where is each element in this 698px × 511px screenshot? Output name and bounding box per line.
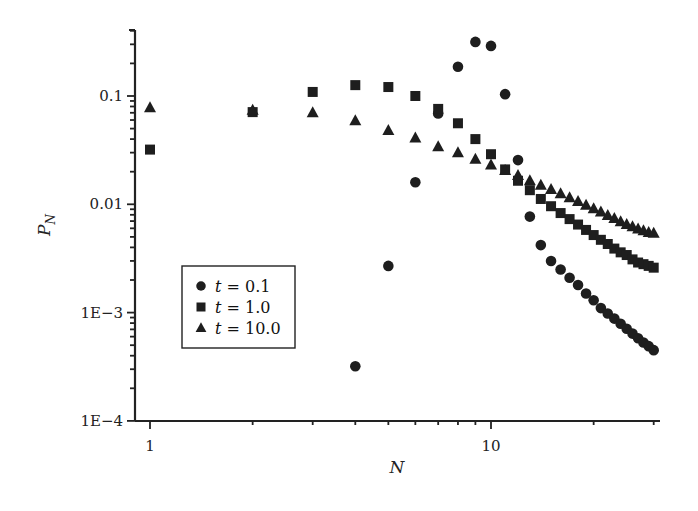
square-marker	[470, 134, 480, 144]
square-marker	[486, 149, 496, 159]
circle-marker	[410, 177, 421, 188]
y-axis-title: PN	[34, 214, 58, 237]
triangle-marker	[545, 183, 557, 194]
x-axis-title: N	[389, 457, 406, 477]
square-marker	[197, 303, 206, 312]
square-marker	[350, 80, 360, 90]
series-triangle	[144, 101, 660, 238]
circle-marker	[470, 37, 481, 48]
circle-marker	[564, 272, 575, 283]
circle-marker	[196, 281, 206, 291]
chart: 1E−41E−30.010.1110 N PN t = 0.1t = 1.0t …	[0, 0, 698, 511]
square-marker	[410, 91, 420, 101]
y-tick-label: 0.01	[90, 195, 123, 213]
circle-marker	[500, 89, 511, 100]
legend: t = 0.1t = 1.0t = 10.0	[182, 266, 295, 348]
triangle-marker	[307, 106, 319, 117]
circle-marker	[453, 62, 464, 73]
circle-marker	[648, 345, 659, 356]
circle-marker	[573, 280, 584, 291]
y-tick-label: 0.1	[99, 87, 123, 105]
circle-marker	[536, 240, 547, 251]
circle-marker	[588, 295, 599, 306]
y-tick-label: 1E−3	[80, 304, 123, 322]
square-marker	[649, 263, 659, 273]
square-marker	[308, 87, 318, 97]
square-marker	[383, 82, 393, 92]
square-marker	[525, 185, 535, 195]
x-tick-label: 1	[145, 437, 155, 455]
series-square	[145, 80, 659, 273]
square-marker	[546, 201, 556, 211]
triangle-marker	[382, 124, 394, 135]
triangle-marker	[144, 101, 156, 112]
circle-marker	[546, 256, 557, 267]
triangle-marker	[485, 159, 497, 170]
square-marker	[453, 118, 463, 128]
triangle-marker	[469, 153, 481, 164]
svg-text:PN: PN	[34, 214, 58, 237]
circle-marker	[486, 41, 497, 52]
triangle-marker	[432, 140, 444, 151]
square-marker	[433, 104, 443, 114]
square-marker	[536, 194, 546, 204]
y-tick-label: 1E−4	[80, 412, 123, 430]
series-circle	[350, 37, 659, 372]
legend-label: t = 10.0	[215, 319, 281, 338]
triangle-marker	[512, 169, 524, 180]
legend-label: t = 1.0	[215, 298, 270, 317]
circle-marker	[383, 261, 394, 272]
circle-marker	[525, 211, 536, 222]
legend-label: t = 0.1	[215, 277, 270, 296]
triangle-marker	[452, 146, 464, 157]
triangle-marker	[535, 179, 547, 190]
circle-marker	[555, 264, 566, 275]
axes: 1E−41E−30.010.1110	[80, 30, 660, 455]
triangle-marker	[349, 114, 361, 125]
circle-marker	[513, 155, 524, 166]
triangle-marker	[409, 131, 421, 142]
square-marker	[145, 145, 155, 155]
triangle-marker	[524, 174, 536, 185]
circle-marker	[350, 361, 361, 372]
x-tick-label: 10	[481, 437, 500, 455]
triangle-marker	[555, 187, 567, 198]
square-marker	[556, 208, 566, 218]
